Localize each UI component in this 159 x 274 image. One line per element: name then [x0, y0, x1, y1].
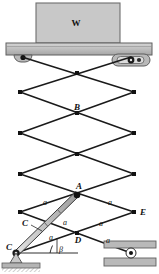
label-a-1: a — [43, 198, 47, 207]
label-a-2: a — [108, 198, 112, 207]
joint-a — [74, 192, 81, 199]
label-a-5: a — [49, 233, 53, 242]
label-a-4: a — [99, 219, 103, 228]
bottom-right-roller-support — [104, 241, 156, 266]
label-weight: W — [72, 18, 81, 28]
label-point-d: D — [74, 235, 82, 245]
label-angle-beta: β — [58, 245, 63, 254]
label-point-c-pin: C — [6, 242, 13, 252]
top-right-roller-support — [112, 54, 150, 66]
label-point-a: A — [75, 181, 82, 191]
linkage-joints — [18, 71, 136, 235]
label-a-3: a — [63, 218, 67, 227]
label-point-b: B — [73, 102, 80, 112]
label-point-e: E — [139, 207, 146, 217]
label-point-c-cylinder: C — [22, 218, 29, 228]
top-platform — [6, 43, 152, 55]
scissor-lift-diagram: W A B D E C C β a a a a a a — [0, 0, 159, 274]
top-left-pin-support — [14, 55, 32, 62]
label-a-6: a — [106, 236, 110, 245]
